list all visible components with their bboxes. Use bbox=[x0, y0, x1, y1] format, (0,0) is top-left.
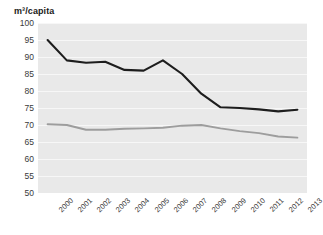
x-axis-tick-label: 2004 bbox=[133, 196, 151, 214]
chart-root: m³/capita 10095908580757065605550 200020… bbox=[0, 0, 323, 235]
x-axis-tick-label: 2009 bbox=[229, 196, 247, 214]
x-axis-tick-label: 2011 bbox=[268, 196, 286, 214]
x-axis-tick-label: 2007 bbox=[191, 196, 209, 214]
x-axis-tick-label: 2012 bbox=[287, 196, 305, 214]
x-axis-ticks: 2000200120022003200420052006200720082009… bbox=[0, 0, 323, 235]
x-axis-tick-label: 2010 bbox=[249, 196, 267, 214]
x-axis-tick-label: 2008 bbox=[210, 196, 228, 214]
x-axis-tick-label: 2006 bbox=[172, 196, 190, 214]
x-axis-tick-label: 2003 bbox=[114, 196, 132, 214]
x-axis-tick-label: 2000 bbox=[56, 196, 74, 214]
x-axis-tick-label: 2005 bbox=[153, 196, 171, 214]
x-axis-tick-label: 2002 bbox=[95, 196, 113, 214]
x-axis-tick-label: 2001 bbox=[76, 196, 94, 214]
x-axis-tick-label: 2013 bbox=[306, 196, 323, 214]
